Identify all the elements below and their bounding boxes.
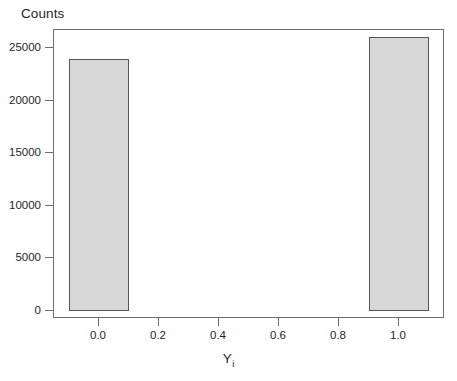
x-tick-mark bbox=[398, 318, 399, 326]
x-axis-title-subscript: i bbox=[232, 358, 235, 369]
y-tick-label: 0 bbox=[0, 304, 41, 316]
y-tick-mark bbox=[45, 257, 53, 258]
x-axis-title: Yi bbox=[0, 350, 457, 368]
y-tick-label: 5000 bbox=[0, 251, 41, 263]
y-tick-mark bbox=[45, 100, 53, 101]
x-tick-label: 0.4 bbox=[198, 329, 238, 342]
x-tick-mark bbox=[98, 318, 99, 326]
x-tick-label: 1.0 bbox=[378, 329, 418, 342]
x-tick-label: 0.0 bbox=[78, 329, 118, 342]
x-tick-label: 0.6 bbox=[258, 329, 298, 342]
y-tick-mark bbox=[45, 205, 53, 206]
bar-chart: Counts 0500010000150002000025000 0.00.20… bbox=[0, 0, 457, 381]
x-axis-title-base: Y bbox=[223, 351, 232, 366]
y-tick-label: 10000 bbox=[0, 199, 41, 211]
x-tick-mark bbox=[218, 318, 219, 326]
bars-layer bbox=[54, 30, 443, 317]
x-tick-label: 0.2 bbox=[138, 329, 178, 342]
y-axis-title: Counts bbox=[21, 6, 64, 22]
plot-area bbox=[53, 29, 444, 318]
x-tick-label: 0.8 bbox=[318, 329, 358, 342]
x-tick-mark bbox=[338, 318, 339, 326]
x-tick-mark bbox=[158, 318, 159, 326]
y-tick-label: 25000 bbox=[0, 41, 41, 53]
y-tick-mark bbox=[45, 152, 53, 153]
y-tick-mark bbox=[45, 47, 53, 48]
y-tick-label: 20000 bbox=[0, 94, 41, 106]
bar-0.0 bbox=[69, 59, 129, 311]
y-tick-mark bbox=[45, 310, 53, 311]
x-tick-mark bbox=[278, 318, 279, 326]
bar-1.0 bbox=[369, 37, 429, 311]
y-tick-label: 15000 bbox=[0, 146, 41, 158]
